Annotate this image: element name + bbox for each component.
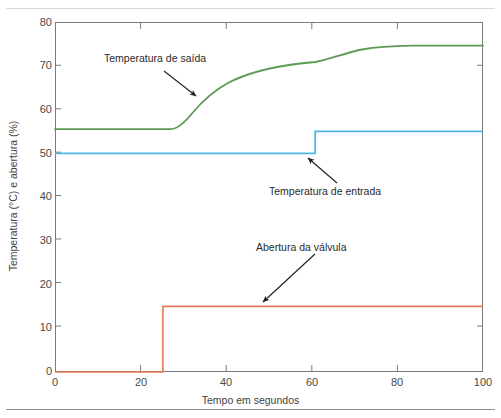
x-tick-20: 20: [121, 377, 161, 388]
y-axis-title: Temperatura (°C) e abertura (%): [7, 106, 19, 286]
y-tick-80: 80: [6, 17, 52, 28]
x-tick-0: 0: [35, 377, 75, 388]
y-tick-70: 70: [6, 60, 52, 71]
annotation-label-temperatura-saida: Temperatura de saída: [104, 52, 206, 64]
figure-top-rule: [6, 8, 495, 9]
x-axis-title: Tempo em segundos: [0, 394, 501, 406]
y-tick-10: 10: [6, 322, 52, 333]
x-tick-80: 80: [377, 377, 417, 388]
chart-figure: 80 70 60 50 40 30 20 10 0 0 20 40 60 80 …: [0, 0, 501, 418]
annotation-label-abertura-valvula: Abertura da válvula: [256, 241, 346, 253]
x-tick-100: 100: [463, 377, 501, 388]
plot-area: [55, 22, 483, 372]
annotation-label-temperatura-entrada: Temperatura de entrada: [269, 185, 381, 197]
figure-bottom-rule: [6, 409, 495, 410]
y-tick-0: 0: [6, 366, 52, 377]
x-tick-60: 60: [292, 377, 332, 388]
x-tick-40: 40: [206, 377, 246, 388]
